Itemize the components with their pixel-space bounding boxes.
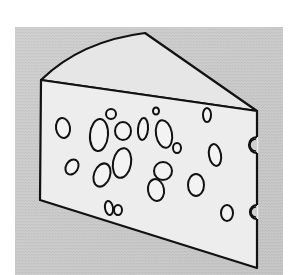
cheese-hole xyxy=(154,162,172,180)
cheese-hole xyxy=(115,122,131,140)
cheese-hole xyxy=(173,143,181,153)
cheese-wedge-drawing xyxy=(0,0,296,275)
cheese-hole xyxy=(188,174,204,196)
cheese-illustration xyxy=(0,0,296,275)
cheese-hole xyxy=(114,205,122,215)
cheese-hole xyxy=(221,205,233,221)
cheese-hole xyxy=(203,108,211,122)
cheese-hole xyxy=(153,108,159,115)
cheese-hole xyxy=(106,109,116,119)
